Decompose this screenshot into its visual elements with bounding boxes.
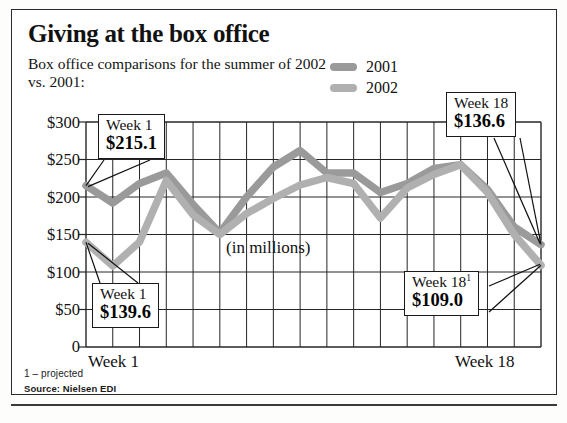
callout-week1-2001: Week 1 $215.1 (98, 114, 165, 159)
y-tick-50: $50 (18, 300, 80, 320)
y-tick-200: $200 (18, 188, 80, 208)
y-tick-0: 0 (18, 337, 80, 357)
legend-item-2002: 2002 (330, 78, 398, 97)
callout-week-label: Week 1 (100, 286, 151, 302)
footnote-projected: 1 – projected (24, 368, 83, 379)
subtitle: Box office comparisons for the summer of… (28, 55, 328, 92)
infographic-root: Giving at the box office Box office comp… (0, 0, 567, 423)
callout-week18-2002: Week 181 $109.0 (404, 271, 479, 316)
callout-week-label: Week 1 (106, 117, 157, 133)
bottom-divider (11, 404, 557, 406)
legend-swatch-2001 (330, 63, 357, 71)
callout-value: $215.1 (106, 134, 157, 153)
callout-week1-2002: Week 1 $139.6 (92, 283, 159, 328)
legend-label-2001: 2001 (366, 58, 398, 76)
y-tick-100: $100 (18, 263, 80, 283)
legend-swatch-2002 (330, 84, 357, 92)
legend-label-2002: 2002 (366, 79, 398, 97)
y-tick-300: $300 (18, 113, 80, 133)
callout-value: $136.6 (454, 112, 508, 131)
callout-week18-2001: Week 18 $136.6 (446, 92, 516, 137)
x-label-week-18: Week 18 (455, 352, 515, 372)
callout-value: $139.6 (100, 303, 151, 322)
y-tick-150: $150 (18, 225, 80, 245)
page-title: Giving at the box office (28, 20, 269, 48)
callout-week-label: Week 18 (454, 95, 508, 111)
callout-footnote-marker: 1 (466, 273, 471, 283)
corner-watermark (400, 408, 403, 415)
legend-item-2001: 2001 (330, 57, 398, 76)
source-line: Source: Nielsen EDI (24, 383, 116, 394)
units-note: (in millions) (226, 238, 311, 258)
y-tick-250: $250 (18, 150, 80, 170)
legend: 2001 2002 (330, 57, 398, 99)
x-label-week-1: Week 1 (88, 352, 139, 372)
callout-week-label: Week 181 (412, 274, 471, 290)
callout-value: $109.0 (412, 291, 471, 310)
